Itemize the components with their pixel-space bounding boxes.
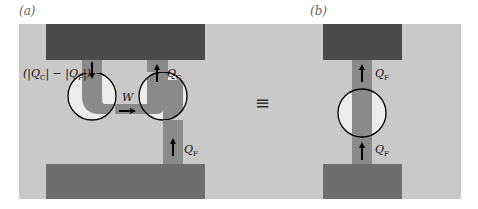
diagram: (a) (b) (|QC| − |QF|) QC W QF ≡ QF QF [0, 0, 478, 209]
cold-reservoir-a [46, 164, 205, 199]
diagram-canvas [0, 0, 478, 209]
work-label: W [122, 91, 133, 104]
hot-reservoir-a [46, 24, 205, 60]
equivalence-symbol: ≡ [255, 92, 270, 113]
qf-label-a: QF [184, 143, 198, 158]
cold-reservoir-b [323, 164, 402, 199]
panel-a-label: (a) [19, 4, 36, 18]
qf-label-b-top: QF [375, 67, 389, 82]
equivalent-engine [338, 88, 386, 138]
qc-label: QC [167, 67, 181, 82]
net-heat-label: (|QC| − |QF|) [23, 67, 91, 82]
qf-label-b-bottom: QF [375, 143, 389, 158]
hot-reservoir-b [323, 24, 402, 60]
panel-b-label: (b) [310, 4, 327, 18]
